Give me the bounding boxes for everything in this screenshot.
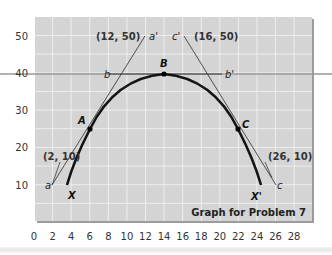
label-b: b <box>104 69 110 80</box>
x-tick-label: 6 <box>87 231 93 242</box>
label-c: c <box>277 180 283 191</box>
label-b-prime: b' <box>225 69 234 80</box>
annotation-2-10: (2, 10) <box>43 151 80 162</box>
annotation-26-10: (26, 10) <box>268 151 312 162</box>
x-tick-label: 14 <box>158 231 171 242</box>
x-tick-label: 26 <box>269 231 282 242</box>
x-tick-label: 0 <box>31 231 37 242</box>
x-tick-label: 18 <box>195 231 208 242</box>
x-tick-label: 20 <box>213 231 226 242</box>
x-tick-label: 8 <box>105 231 111 242</box>
x-tick-label: 2 <box>49 231 55 242</box>
y-tick-label: 50 <box>15 31 28 42</box>
point-a <box>87 126 92 131</box>
label-point-a: A <box>77 115 86 126</box>
x-tick-label: 4 <box>68 231 74 242</box>
annotation-12-50: (12, 50) <box>96 31 140 42</box>
y-axis-ticks: 1020304050 <box>15 31 28 191</box>
annotation-16-50: (16, 50) <box>194 31 238 42</box>
x-tick-label: 10 <box>121 231 134 242</box>
x-tick-label: 28 <box>288 231 301 242</box>
x-tick-label: 24 <box>251 231 264 242</box>
label-point-c: C <box>242 119 250 130</box>
x-axis-ticks: 0246810121416182022242628 <box>31 231 301 242</box>
label-x: X <box>67 190 77 201</box>
label-a: a <box>45 180 51 191</box>
x-tick-label: 16 <box>176 231 189 242</box>
label-c-prime: c' <box>172 31 180 42</box>
y-tick-label: 20 <box>15 142 28 153</box>
y-tick-label: 40 <box>15 68 28 79</box>
label-point-b: B <box>160 58 168 69</box>
chart: A B C X X' a a' b b' c c' (12, 50) (16, … <box>0 0 332 255</box>
x-tick-label: 22 <box>232 231 245 242</box>
point-c <box>235 126 240 131</box>
y-tick-label: 30 <box>15 105 28 116</box>
plot-area <box>35 17 312 221</box>
bottom-separator <box>0 247 332 253</box>
point-b <box>161 71 166 76</box>
label-x-prime: X' <box>250 191 262 202</box>
chart-caption: Graph for Problem 7 <box>191 207 306 218</box>
y-tick-label: 10 <box>15 180 28 191</box>
x-tick-label: 12 <box>139 231 152 242</box>
label-a-prime: a' <box>149 31 158 42</box>
